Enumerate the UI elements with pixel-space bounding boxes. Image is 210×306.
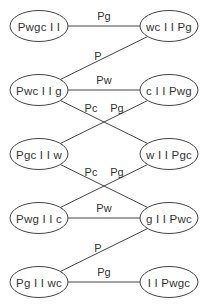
node-label: Pgc I I w — [16, 149, 62, 161]
state-node: w I I Pgc — [140, 139, 198, 170]
node-label: Pwc I I g — [16, 85, 62, 97]
node-label: Pwg I I c — [16, 213, 62, 225]
state-node: Pg I I wc — [10, 267, 68, 298]
edge-label: Pw — [96, 202, 111, 214]
state-node: Pwgc I I — [10, 11, 68, 42]
state-node: Pwc I I g — [10, 75, 68, 106]
state-diagram: PgPPwPcPgPcPgPwPPg Pwgc I Iwc I I PgPwc … — [0, 0, 210, 306]
state-node: Pwg I I c — [10, 203, 68, 234]
edge-label: Pc — [85, 166, 98, 178]
state-node: c I I Pwg — [140, 75, 198, 106]
edge-label: Pg — [110, 166, 123, 178]
node-label: Pg I I wc — [16, 277, 62, 289]
edge-label: P — [94, 242, 101, 254]
node-label: c I I Pwg — [146, 85, 192, 97]
node-label: wc I I Pg — [145, 21, 192, 33]
nodes-layer: Pwgc I Iwc I I PgPwc I I gc I I PwgPgc I… — [10, 11, 198, 298]
state-node: I I Pwgc — [140, 267, 198, 298]
state-node: g I I Pwc — [140, 203, 198, 234]
node-label: Pwgc I I — [18, 21, 61, 33]
node-label: w I I Pgc — [145, 149, 192, 161]
edge-labels-layer: PgPPwPcPgPcPgPwPPg — [85, 10, 124, 278]
node-label: I I Pwgc — [148, 277, 191, 289]
edges-layer — [60, 26, 147, 282]
edge-label: P — [94, 50, 101, 62]
state-node: wc I I Pg — [140, 11, 198, 42]
edge-label: Pg — [97, 266, 110, 278]
edge-label: Pg — [97, 10, 110, 22]
node-label: g I I Pwc — [146, 213, 192, 225]
edge-label: Pw — [96, 74, 111, 86]
state-node: Pgc I I w — [10, 139, 68, 170]
edge-label: Pg — [110, 102, 123, 114]
edge-label: Pc — [85, 102, 98, 114]
